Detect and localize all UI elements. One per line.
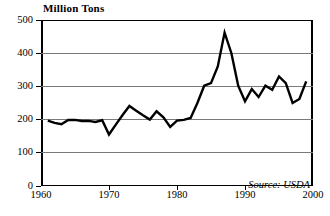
y-tick-label-400: 400 [1, 48, 33, 59]
y-tick-label-100: 100 [1, 147, 33, 158]
y-tick-label-500: 500 [1, 15, 33, 26]
y-tick-label-200: 200 [1, 114, 33, 125]
gridline-400 [41, 53, 313, 54]
y-tick-label-300: 300 [1, 81, 33, 92]
y-tick-mark-500 [36, 20, 41, 21]
x-tick-label-1990: 1990 [225, 189, 265, 200]
x-tick-mark-1980 [177, 186, 178, 190]
gridline-100 [41, 152, 313, 153]
x-tick-label-1960: 1960 [21, 189, 61, 200]
plot-area [41, 20, 313, 186]
x-tick-mark-1970 [109, 186, 110, 190]
x-tick-label-1970: 1970 [89, 189, 129, 200]
x-tick-label-1980: 1980 [157, 189, 197, 200]
y-tick-mark-0 [36, 186, 41, 187]
y-axis-title: Million Tons [43, 2, 104, 14]
x-tick-mark-1990 [245, 186, 246, 190]
x-tick-label-2000: 2000 [293, 189, 330, 200]
gridline-300 [41, 86, 313, 87]
chart-container: Million Tons 0100200300400500 1960197019… [0, 0, 330, 216]
source-annotation: Source: USDA [248, 179, 310, 190]
gridline-200 [41, 119, 313, 120]
